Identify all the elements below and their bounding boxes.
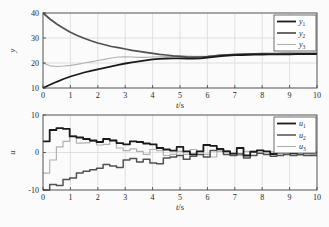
x-tick-label: 5 — [178, 193, 182, 202]
x-tick-label: 4 — [151, 193, 155, 202]
y-tick-label: 20 — [31, 59, 39, 68]
output-chart-y-axis-label: y — [7, 48, 17, 53]
control-chart-x-axis-label: t/s — [176, 202, 184, 212]
x-tick-label: 8 — [260, 193, 264, 202]
x-tick-label: 7 — [233, 193, 237, 202]
y-tick-label: 10 — [31, 111, 39, 120]
y-tick-label: 40 — [31, 9, 39, 18]
x-tick-label: 10 — [313, 91, 321, 100]
x-tick-label: 2 — [96, 91, 100, 100]
control-simulation-figure: 01234567891010203040t/syy1y2y30123456789… — [0, 0, 329, 227]
output-chart-x-axis-label: t/s — [176, 100, 184, 110]
x-tick-label: 4 — [151, 91, 155, 100]
y-tick-label: 0 — [35, 148, 39, 157]
x-tick-label: 7 — [233, 91, 237, 100]
x-tick-label: 9 — [288, 91, 292, 100]
x-tick-label: 3 — [123, 193, 127, 202]
x-tick-label: 1 — [68, 91, 72, 100]
x-tick-label: 8 — [260, 91, 264, 100]
output-chart: 01234567891010203040t/syy1y2y3 — [7, 9, 321, 110]
x-tick-label: 1 — [68, 193, 72, 202]
x-tick-label: 2 — [96, 193, 100, 202]
x-tick-label: 9 — [288, 193, 292, 202]
x-tick-label: 0 — [41, 193, 45, 202]
y-tick-label: 10 — [31, 84, 39, 93]
y-tick-label: 30 — [31, 34, 39, 43]
figure-svg: 01234567891010203040t/syy1y2y30123456789… — [0, 0, 329, 227]
x-tick-label: 6 — [205, 91, 209, 100]
y-tick-label: -10 — [28, 186, 39, 195]
control-chart-y-axis-label: u — [7, 150, 17, 154]
x-tick-label: 3 — [123, 91, 127, 100]
x-tick-label: 0 — [41, 91, 45, 100]
control-chart-legend: u1u2u3 — [274, 117, 316, 153]
x-tick-label: 5 — [178, 91, 182, 100]
x-tick-label: 6 — [205, 193, 209, 202]
output-chart-legend: y1y2y3 — [274, 15, 316, 51]
x-tick-label: 10 — [313, 193, 321, 202]
control-chart: 012345678910-10010t/suu1u2u3 — [7, 111, 321, 212]
